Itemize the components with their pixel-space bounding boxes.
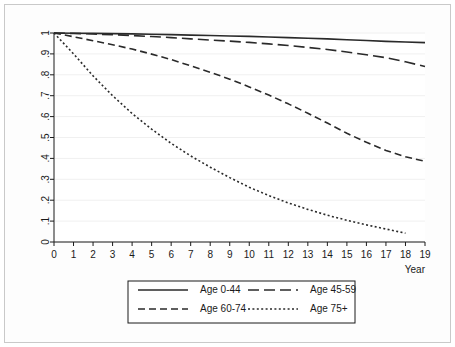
y-axis-tick-label: .9 xyxy=(40,49,51,58)
x-axis-tick-label: 11 xyxy=(264,249,275,260)
x-axis-ticks xyxy=(54,242,425,246)
x-axis-tick-label: 1 xyxy=(71,249,77,260)
x-axis-tick-label: 17 xyxy=(380,249,392,260)
legend-label-3: Age 60-74 xyxy=(200,303,247,314)
y-axis-tick-labels: 0.1.2.3.4.5.6.7.8.91 xyxy=(40,30,51,245)
x-axis-tick-label: 3 xyxy=(110,249,116,260)
x-axis-tick-label: 10 xyxy=(244,249,256,260)
x-axis-tick-label: 19 xyxy=(419,249,431,260)
y-axis-tick-label: .8 xyxy=(40,70,51,79)
survival-curve-chart: 0.1.2.3.4.5.6.7.8.91 0123456789101112131… xyxy=(0,0,455,347)
legend-label-1: Age 0-44 xyxy=(200,284,241,295)
y-axis-tick-label: .6 xyxy=(40,112,51,121)
x-axis-title: Year xyxy=(405,264,426,275)
x-axis-tick-labels: 012345678910111213141516171819 xyxy=(51,249,431,260)
x-axis-tick-label: 7 xyxy=(188,249,194,260)
x-axis-tick-label: 8 xyxy=(207,249,213,260)
y-axis-tick-label: .2 xyxy=(40,196,51,205)
x-axis-tick-label: 0 xyxy=(51,249,57,260)
x-axis-tick-label: 14 xyxy=(322,249,334,260)
y-axis-tick-label: .3 xyxy=(40,175,51,184)
y-axis-tick-label: .1 xyxy=(40,216,51,225)
legend-label-4: Age 75+ xyxy=(310,303,348,314)
chart-legend: Age 0-44Age 45-59Age 60-74Age 75+ xyxy=(128,281,357,323)
x-axis-tick-label: 13 xyxy=(302,249,314,260)
x-axis-tick-label: 15 xyxy=(341,249,353,260)
y-axis-tick-label: .7 xyxy=(40,91,51,100)
y-axis-tick-label: 1 xyxy=(40,30,51,36)
y-axis-tick-label: 0 xyxy=(40,239,51,245)
x-axis-tick-label: 2 xyxy=(90,249,96,260)
x-axis-tick-label: 6 xyxy=(168,249,174,260)
x-axis-tick-label: 16 xyxy=(361,249,373,260)
x-axis-tick-label: 18 xyxy=(400,249,412,260)
legend-label-2: Age 45-59 xyxy=(310,284,357,295)
y-axis-tick-label: .4 xyxy=(40,154,51,163)
x-axis-tick-label: 4 xyxy=(129,249,135,260)
x-axis-tick-label: 12 xyxy=(283,249,295,260)
x-axis-tick-label: 5 xyxy=(149,249,155,260)
figure-container: 0.1.2.3.4.5.6.7.8.91 0123456789101112131… xyxy=(0,0,455,347)
x-axis-tick-label: 9 xyxy=(227,249,233,260)
y-axis-tick-label: .5 xyxy=(40,133,51,142)
